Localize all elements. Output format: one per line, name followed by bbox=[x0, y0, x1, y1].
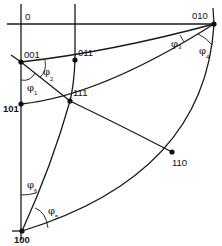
phi2-symbol: φ bbox=[43, 66, 50, 77]
label-101: 101 bbox=[3, 103, 20, 114]
angle-arc-phi3 bbox=[180, 35, 184, 42]
pole-101 bbox=[18, 101, 23, 106]
phi6-symbol: φ bbox=[27, 179, 34, 190]
origin-label: 0 bbox=[25, 11, 30, 22]
stereographic-diagram: 0 001 011 111 101 010 110 100 φ 1 φ 2 φ … bbox=[0, 0, 222, 246]
label-001: 001 bbox=[24, 49, 40, 60]
phi1-symbol: φ bbox=[27, 82, 34, 93]
phi2-sub: 2 bbox=[50, 76, 54, 82]
pole-001 bbox=[18, 59, 23, 64]
label-110: 110 bbox=[172, 157, 187, 168]
pole-010 bbox=[211, 21, 216, 26]
label-111: 111 bbox=[73, 87, 87, 98]
label-011: 011 bbox=[78, 47, 93, 58]
pole-111 bbox=[67, 98, 72, 103]
phi1-sub: 1 bbox=[34, 90, 38, 96]
arc-001-010 bbox=[21, 24, 214, 62]
phi5-sub: 5 bbox=[55, 214, 59, 220]
primitive-circle-arc bbox=[22, 24, 214, 231]
arc-011-100 bbox=[22, 4, 75, 231]
phi3-sub: 3 bbox=[178, 44, 182, 50]
angle-arc-phi1 bbox=[21, 73, 35, 80]
pole-011 bbox=[72, 57, 77, 62]
label-100: 100 bbox=[14, 234, 30, 245]
angle-arc-phi4 bbox=[198, 34, 212, 45]
label-010: 010 bbox=[192, 10, 208, 21]
phi4-symbol: φ bbox=[199, 45, 206, 56]
arc-001-110 bbox=[11, 55, 172, 152]
arc-101-010 bbox=[21, 24, 214, 104]
phi5-symbol: φ bbox=[48, 205, 55, 216]
phi6-sub: 6 bbox=[34, 188, 38, 194]
pole-110 bbox=[169, 149, 174, 154]
pole-100 bbox=[19, 228, 24, 233]
phi3-symbol: φ bbox=[171, 38, 178, 49]
